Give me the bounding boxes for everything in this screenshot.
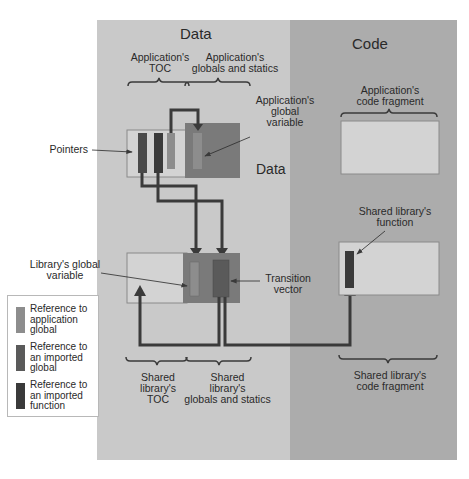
legend-label: Reference to an imported function	[30, 380, 87, 412]
label-transition-vector: Transition vector	[258, 273, 318, 295]
legend-swatch-app-global	[16, 307, 25, 333]
legend-swatch-imported-function	[16, 383, 25, 409]
brace-app-toc	[128, 78, 189, 86]
legend-label: Reference to an imported global	[30, 342, 87, 374]
legend-label: Reference to application global	[30, 304, 87, 336]
pointer-1	[138, 133, 147, 173]
label-app-code-fragment: Application's code fragment	[340, 85, 440, 107]
app-global-variable	[193, 133, 202, 169]
legend-item-imported-global: Reference to an imported global	[16, 342, 100, 372]
lib-function	[345, 251, 354, 288]
label-lib-code-fragment: Shared library's code fragment	[340, 370, 440, 392]
brace-app-globals	[185, 78, 250, 86]
app-code-fragment-box	[341, 121, 439, 174]
legend: Reference to application global Referenc…	[7, 295, 99, 417]
data-inner-heading: Data	[256, 161, 286, 177]
legend-swatch-imported-global	[16, 345, 25, 371]
pointer-2	[154, 133, 163, 173]
label-lib-function: Shared library's function	[345, 206, 445, 228]
legend-item-app-global: Reference to application global	[16, 304, 100, 334]
label-lib-globals: Shared library's globals and statics	[170, 372, 285, 405]
brace-lib-toc	[126, 357, 187, 365]
brace-app-code	[341, 109, 437, 117]
label-pointers: Pointers	[20, 144, 88, 155]
brace-lib-globals	[186, 357, 251, 365]
label-lib-global-variable: Library's global variable	[20, 259, 110, 281]
transition-vector	[213, 260, 229, 297]
brace-lib-code	[339, 355, 437, 363]
label-app-globals: Application's globals and statics	[180, 52, 290, 74]
legend-item-imported-function: Reference to an imported function	[16, 380, 100, 410]
lib-global-variable	[190, 262, 199, 296]
label-app-global-variable: Application's global variable	[250, 95, 320, 128]
app-global-ref	[167, 133, 175, 169]
